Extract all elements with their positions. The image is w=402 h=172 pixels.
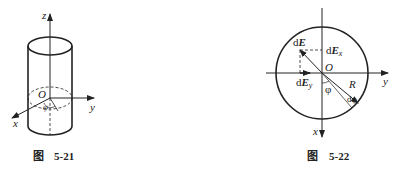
x-label: x <box>12 117 18 129</box>
dphi-label: dφ <box>347 94 357 104</box>
z-label: z <box>41 9 47 21</box>
phi-label: φ <box>325 83 331 95</box>
figures-canvas: z y x O φ 图 5-21 dE dEx dEy O R φ dφ y <box>0 0 402 172</box>
caption-number: 5-22 <box>329 150 350 162</box>
y-label: y <box>382 75 388 87</box>
caption-prefix: 图 <box>33 150 44 162</box>
figure-5-21: z y x O φ 图 5-21 <box>12 9 95 162</box>
dE-vector <box>300 50 322 73</box>
x-label: x <box>312 125 318 137</box>
origin-label: O <box>325 61 333 73</box>
R-label: R <box>348 78 356 90</box>
angle-label: φ <box>43 102 48 112</box>
dEx-label: dEx <box>326 44 343 58</box>
dE-label: dE <box>293 36 306 48</box>
y-label: y <box>89 101 95 113</box>
caption-prefix: 图 <box>307 150 318 162</box>
origin-label: O <box>38 88 46 100</box>
caption-number: 5-21 <box>54 150 74 162</box>
dEy-label: dEy <box>296 76 313 90</box>
figure-5-22: dE dEx dEy O R φ dφ y x 图 5-22 <box>266 8 388 162</box>
